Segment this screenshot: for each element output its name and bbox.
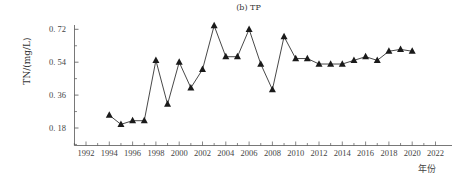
triangle-marker [362,53,369,60]
x-tick-label: 2004 [217,148,235,158]
x-tick-label: 1998 [147,148,164,158]
x-tick-label: 2000 [171,148,188,158]
x-tick-label: 2010 [287,148,304,158]
triangle-marker [141,117,148,124]
triangle-marker [397,46,404,53]
triangle-marker [281,33,288,40]
y-axis-ticks: 0. 180. 360. 540. 72 [49,24,79,144]
x-tick-label: 2014 [334,148,352,158]
x-tick-label: 1994 [101,148,119,158]
triangle-marker [199,66,206,73]
x-tick-label: 1996 [124,148,141,158]
y-tick-label: 0. 36 [49,90,66,100]
x-tick-label: 2002 [194,148,211,158]
x-tick-label: 2020 [404,148,421,158]
x-tick-label: 1992 [78,148,95,158]
line-chart: 0. 180. 360. 540. 72 1992199419961998200… [0,0,475,184]
y-tick-label: 0. 18 [49,123,66,133]
triangle-marker [269,86,276,93]
triangle-marker [164,100,171,107]
series-line [109,26,412,125]
triangle-marker [176,58,183,65]
triangle-marker [292,55,299,62]
y-tick-label: 0. 54 [49,57,67,67]
triangle-marker [129,117,136,124]
triangle-marker [106,111,113,118]
data-series [106,22,416,127]
x-axis-ticks: 1992199419961998200020022004200620082010… [74,142,444,158]
x-tick-label: 2012 [311,148,328,158]
triangle-marker [187,84,194,91]
x-tick-label: 2008 [264,148,281,158]
triangle-marker [152,56,159,63]
triangle-marker [257,60,264,67]
triangle-marker [316,60,323,67]
x-tick-label: 2006 [241,148,258,158]
triangle-marker [246,25,253,32]
x-tick-label: 2022 [427,148,444,158]
triangle-marker [211,22,218,29]
y-tick-label: 0. 72 [49,24,66,34]
triangle-marker [234,53,241,60]
triangle-marker [222,53,229,60]
x-tick-label: 2016 [357,148,374,158]
triangle-marker [304,55,311,62]
triangle-marker [327,60,334,67]
chart-axes [75,25,453,146]
x-tick-label: 2018 [380,148,397,158]
